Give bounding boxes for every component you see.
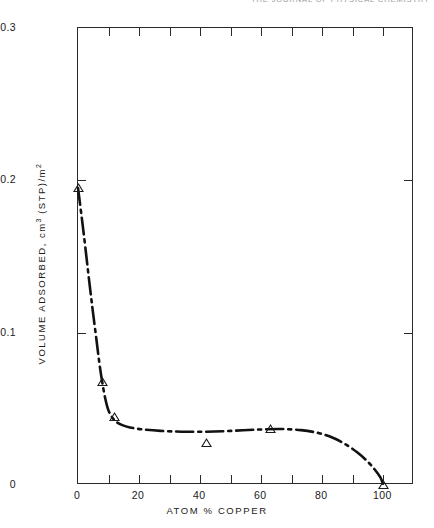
x-tick-label-60: 60 bbox=[254, 489, 266, 501]
x-tick-top-100 bbox=[383, 28, 384, 36]
y-axis-title-lead: VOLUME ADSORBED, cm bbox=[36, 222, 47, 364]
x-tick-top-30 bbox=[170, 28, 171, 36]
data-point-marker bbox=[108, 411, 121, 423]
x-tick-bottom-100 bbox=[383, 475, 384, 483]
y-tick-right-0.1 bbox=[404, 333, 412, 334]
running-header-text: THE JOURNAL OF PHYSICAL CHEMISTRY bbox=[251, 0, 430, 4]
x-tick-label-40: 40 bbox=[193, 489, 205, 501]
y-tick-right-0.2 bbox=[404, 180, 412, 181]
data-point-marker bbox=[200, 437, 213, 449]
y-axis-title: VOLUME ADSORBED, cm3 (STP)/m2 bbox=[35, 139, 47, 389]
x-tick-top-70 bbox=[292, 28, 293, 36]
x-tick-label-20: 20 bbox=[132, 489, 144, 501]
x-tick-top-50 bbox=[231, 28, 232, 36]
y-tick-left-0.2 bbox=[78, 180, 86, 181]
chart-page: THE JOURNAL OF PHYSICAL CHEMISTRY 00.10.… bbox=[0, 0, 434, 528]
y-tick-left-0.1 bbox=[78, 333, 86, 334]
x-tick-bottom-60 bbox=[261, 475, 262, 483]
y-axis-title-mid: (STP)/m bbox=[36, 168, 47, 218]
y-axis-title-sup-2: 2 bbox=[35, 164, 42, 168]
x-tick-bottom-80 bbox=[322, 475, 323, 483]
y-axis-title-sup-3: 3 bbox=[35, 218, 42, 222]
data-point-marker bbox=[72, 182, 85, 194]
x-tick-top-60 bbox=[261, 28, 262, 36]
open-triangle-icon bbox=[266, 425, 275, 433]
x-tick-bottom-30 bbox=[170, 475, 171, 483]
x-tick-label-0: 0 bbox=[74, 489, 80, 501]
x-tick-bottom-10 bbox=[109, 475, 110, 483]
y-tick-label-0.3: 0.3 bbox=[0, 21, 16, 33]
x-tick-bottom-70 bbox=[292, 475, 293, 483]
x-tick-label-100: 100 bbox=[373, 489, 392, 501]
data-markers bbox=[78, 28, 412, 483]
x-axis-title: ATOM % COPPER bbox=[0, 505, 434, 516]
open-triangle-icon bbox=[202, 439, 211, 447]
x-tick-bottom-90 bbox=[353, 475, 354, 483]
open-triangle-icon bbox=[98, 378, 107, 386]
data-point-marker bbox=[96, 376, 109, 388]
x-tick-bottom-20 bbox=[139, 475, 140, 483]
x-tick-top-10 bbox=[109, 28, 110, 36]
x-tick-bottom-50 bbox=[231, 475, 232, 483]
x-tick-top-40 bbox=[200, 28, 201, 36]
x-tick-top-20 bbox=[139, 28, 140, 36]
y-tick-label-0.1: 0.1 bbox=[0, 326, 16, 338]
open-triangle-icon bbox=[110, 413, 119, 421]
x-tick-bottom-40 bbox=[200, 475, 201, 483]
plot-frame bbox=[77, 27, 413, 484]
x-tick-top-90 bbox=[353, 28, 354, 36]
y-tick-label-0.2: 0.2 bbox=[0, 173, 16, 185]
data-point-marker bbox=[264, 423, 277, 435]
y-tick-label-0: 0 bbox=[10, 478, 16, 490]
x-tick-top-80 bbox=[322, 28, 323, 36]
open-triangle-icon bbox=[74, 184, 83, 192]
running-header: THE JOURNAL OF PHYSICAL CHEMISTRY bbox=[0, 0, 434, 8]
x-tick-label-80: 80 bbox=[315, 489, 327, 501]
